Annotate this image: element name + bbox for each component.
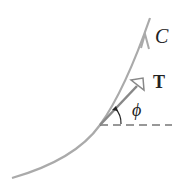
angle-label: ϕ [132,101,141,119]
tangent-vector-label: T [153,73,165,91]
curve-label: C [155,26,168,46]
curve-direction-arrow-icon [141,34,149,49]
tangent-vector-arrowhead-icon [131,78,144,90]
curve-c [12,18,150,178]
